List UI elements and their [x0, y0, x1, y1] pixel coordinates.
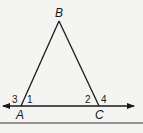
vertex-label-c: C [95, 108, 104, 122]
angle-label-1: 1 [27, 94, 33, 105]
vertex-label-b: B [55, 6, 63, 20]
triangle-diagram: B A C 3 1 2 4 [0, 0, 143, 133]
angle-label-4: 4 [101, 94, 107, 105]
angle-label-2: 2 [85, 94, 91, 105]
angle-label-3: 3 [12, 94, 18, 105]
vertex-label-a: A [15, 108, 24, 122]
side-bc [59, 21, 99, 106]
